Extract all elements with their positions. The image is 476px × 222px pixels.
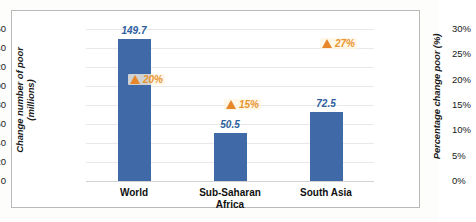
x-axis-category-label: Sub-SaharanAfrica [182,187,278,211]
y-axis-right-tick: 25% [452,48,476,59]
y-axis-right-tick: 15% [452,99,476,110]
bar[interactable] [310,112,343,181]
y-axis-left-tick: 60 [0,118,6,129]
bar[interactable] [214,133,247,181]
y-axis-left-title: Change number of poor (millions) [14,25,36,175]
triangle-up-icon [130,75,140,84]
y-axis-left-tick: 160 [0,23,6,34]
chart-frame: Change number of poor (millions) Percent… [11,10,420,208]
gridline [86,181,374,182]
x-axis-category-line: South Asia [278,187,374,199]
marker-point[interactable]: 15% [224,99,261,110]
x-axis-category-line: World [86,187,182,199]
y-axis-right-tick: 0% [452,175,476,186]
y-axis-right-tick: 30% [452,23,476,34]
bar-value-label: 50.5 [195,119,265,130]
x-axis-category-line: Sub-Saharan [182,187,278,199]
marker-value-label: 27% [335,38,355,49]
y-axis-left-tick: 80 [0,99,6,110]
y-axis-right-tick: 10% [452,124,476,135]
x-axis-category-label: World [86,187,182,199]
y-axis-left-tick: 0 [0,175,6,186]
y-axis-right-tick: 20% [452,74,476,85]
y-axis-left-title-line2: (millions) [25,25,36,175]
triangle-up-icon [226,100,236,109]
y-axis-left-tick: 20 [0,156,6,167]
marker-value-label: 15% [239,99,259,110]
triangle-up-icon [322,39,332,48]
bar-value-label: 149.7 [99,25,169,36]
y-axis-left-tick: 40 [0,137,6,148]
y-axis-left-tick: 140 [0,42,6,53]
marker-point[interactable]: 27% [320,38,357,49]
y-axis-left-title-line1: Change number of poor [14,47,25,153]
x-axis-category-line: Africa [182,199,278,211]
bar-value-label: 72.5 [291,98,361,109]
plot-area: 149.750.572.520%15%27% [86,29,374,181]
x-axis-category-label: South Asia [278,187,374,199]
marker-point[interactable]: 20% [128,74,165,85]
marker-value-label: 20% [143,74,163,85]
y-axis-left-tick: 100 [0,80,6,91]
bar[interactable] [118,39,151,181]
y-axis-right-title: Percentage change poor (%) [431,22,442,172]
y-axis-right-tick: 5% [452,150,476,161]
y-axis-left-tick: 120 [0,61,6,72]
